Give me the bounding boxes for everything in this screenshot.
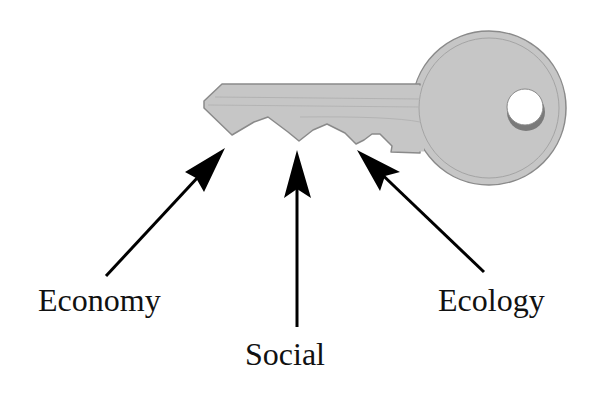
arrow-economy xyxy=(106,148,225,276)
arrow-social xyxy=(284,150,311,327)
key-hole xyxy=(507,89,543,125)
label-ecology: Ecology xyxy=(438,284,545,316)
label-economy: Economy xyxy=(38,284,161,316)
key-icon xyxy=(204,31,566,185)
label-social: Social xyxy=(245,338,325,370)
